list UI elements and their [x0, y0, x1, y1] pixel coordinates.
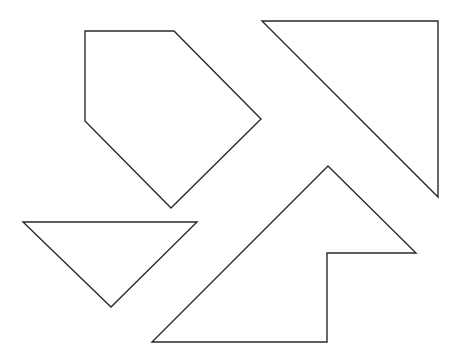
- pentagon-shape: [85, 31, 261, 208]
- right-triangle-shape: [262, 21, 438, 197]
- inverted-triangle-shape: [23, 222, 197, 307]
- tangram-canvas: [0, 0, 461, 358]
- arrow-shape: [152, 166, 416, 342]
